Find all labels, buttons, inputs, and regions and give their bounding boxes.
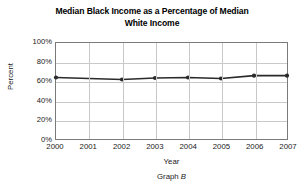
- x-axis-tick-label: 2006: [238, 142, 272, 151]
- y-axis-tick-label: 80%: [18, 58, 52, 66]
- gridline-horizontal: [56, 63, 287, 64]
- data-point-marker: [54, 76, 58, 80]
- chart-figure: Median Black Income as a Percentage of M…: [0, 0, 304, 190]
- gridline-vertical: [123, 43, 124, 139]
- y-axis-tick-label: 60%: [18, 77, 52, 85]
- figure-caption-prefix: Graph: [157, 172, 181, 181]
- gridline-vertical: [89, 43, 90, 139]
- y-axis-tick-label: 20%: [18, 116, 52, 124]
- gridline-horizontal: [56, 82, 287, 83]
- x-axis-tick-label: 2001: [71, 142, 105, 151]
- figure-caption-id: B: [181, 172, 186, 181]
- x-axis-tick-label: 2002: [105, 142, 139, 151]
- chart-title-line-2: White Income: [125, 18, 180, 28]
- x-axis-tick-label: 2000: [38, 142, 72, 151]
- chart-title-line-1: Median Black Income as a Percentage of M…: [55, 6, 248, 16]
- x-axis-tick-label: 2007: [271, 142, 304, 151]
- figure-caption: Graph B: [55, 172, 288, 181]
- x-axis-tick-label: 2004: [171, 142, 205, 151]
- plot-area: [55, 42, 288, 140]
- y-axis-tick-label: 100%: [18, 38, 52, 46]
- gridline-horizontal: [56, 121, 287, 122]
- x-axis-title: Year: [55, 157, 288, 166]
- x-axis-tick-label: 2003: [138, 142, 172, 151]
- y-axis-tick-labels: 0%20%40%60%80%100%: [16, 42, 52, 140]
- y-axis-title: Percent: [6, 51, 15, 103]
- gridline-vertical: [222, 43, 223, 139]
- data-point-marker: [285, 74, 289, 78]
- x-axis-tick-labels: 20002001200220032004200520062007: [55, 142, 288, 156]
- y-axis-tick-label: 40%: [18, 97, 52, 105]
- gridline-vertical: [189, 43, 190, 139]
- data-series-line: [56, 43, 287, 139]
- gridline-vertical: [156, 43, 157, 139]
- gridline-horizontal: [56, 102, 287, 103]
- chart-title: Median Black Income as a Percentage of M…: [30, 6, 274, 29]
- gridline-vertical: [256, 43, 257, 139]
- x-axis-tick-label: 2005: [204, 142, 238, 151]
